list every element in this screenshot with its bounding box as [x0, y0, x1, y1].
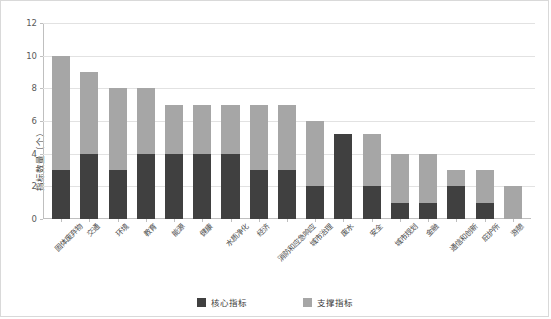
bar-stack[interactable] — [334, 134, 352, 219]
bar-stack[interactable] — [363, 134, 381, 219]
x-label-cell: 庇护所 — [471, 221, 499, 283]
bar-segment-support[interactable] — [165, 105, 183, 154]
x-label-cell: 环境 — [103, 221, 131, 283]
bar-group[interactable] — [358, 23, 386, 219]
bar-stack[interactable] — [306, 121, 324, 219]
y-tick-label: 12 — [26, 18, 37, 28]
x-axis-label: 安全 — [369, 223, 384, 238]
bar-group[interactable] — [329, 23, 357, 219]
bar-segment-support[interactable] — [447, 170, 465, 186]
bar-segment-core[interactable] — [52, 170, 70, 219]
x-axis-label: 环境 — [115, 223, 130, 238]
x-label-cell: 水质净化 — [216, 221, 244, 283]
bar-segment-support[interactable] — [52, 56, 70, 170]
bar-segment-support[interactable] — [391, 154, 409, 203]
x-label-cell: 教育 — [132, 221, 160, 283]
bar-segment-support[interactable] — [476, 170, 494, 203]
bar-stack[interactable] — [504, 186, 522, 219]
x-label-cell: 金融 — [414, 221, 442, 283]
x-axis-label: 能源 — [171, 223, 186, 238]
bar-group[interactable] — [245, 23, 273, 219]
x-axis-label: 经济 — [256, 223, 271, 238]
bar-segment-core[interactable] — [476, 203, 494, 219]
bar-segment-core[interactable] — [221, 154, 239, 219]
bar-stack[interactable] — [165, 105, 183, 219]
x-label-cell: 安全 — [358, 221, 386, 283]
bar-group[interactable] — [132, 23, 160, 219]
bar-segment-core[interactable] — [363, 186, 381, 219]
bar-segment-core[interactable] — [278, 170, 296, 219]
bar-segment-support[interactable] — [306, 121, 324, 186]
bar-group[interactable] — [216, 23, 244, 219]
y-tick-label: 0 — [32, 214, 37, 224]
bar-segment-core[interactable] — [165, 154, 183, 219]
legend-label: 核心指标 — [211, 296, 247, 308]
bar-group[interactable] — [414, 23, 442, 219]
bar-segment-core[interactable] — [193, 154, 211, 219]
bar-segment-support[interactable] — [137, 88, 155, 153]
bar-stack[interactable] — [221, 105, 239, 219]
y-tick-label: 4 — [32, 149, 37, 159]
legend-item[interactable]: 核心指标 — [197, 296, 247, 308]
x-label-cell: 能源 — [160, 221, 188, 283]
bar-segment-core[interactable] — [250, 170, 268, 219]
bar-segment-support[interactable] — [221, 105, 239, 154]
bar-group[interactable] — [103, 23, 131, 219]
x-axis-label: 废水 — [341, 223, 356, 238]
legend-label: 支撑指标 — [317, 296, 353, 308]
bar-stack[interactable] — [109, 88, 127, 219]
bar-group[interactable] — [442, 23, 470, 219]
bar-segment-core[interactable] — [109, 170, 127, 219]
bar-group[interactable] — [75, 23, 103, 219]
bar-segment-core[interactable] — [334, 134, 352, 219]
bar-stack[interactable] — [391, 154, 409, 219]
bar-group[interactable] — [301, 23, 329, 219]
bar-segment-core[interactable] — [447, 186, 465, 219]
bar-segment-support[interactable] — [109, 88, 127, 170]
bar-segment-support[interactable] — [363, 134, 381, 186]
plot-area: 024681012 — [43, 23, 531, 219]
legend-swatch-icon — [303, 298, 312, 307]
bar-series-container — [43, 23, 531, 219]
legend-item[interactable]: 支撑指标 — [303, 296, 353, 308]
bar-stack[interactable] — [52, 56, 70, 219]
bar-segment-support[interactable] — [419, 154, 437, 203]
x-axis-label: 健康 — [199, 223, 214, 238]
bar-stack[interactable] — [447, 170, 465, 219]
bar-segment-support[interactable] — [250, 105, 268, 170]
bar-stack[interactable] — [278, 105, 296, 219]
bar-segment-core[interactable] — [419, 203, 437, 219]
bar-stack[interactable] — [137, 88, 155, 219]
bar-stack[interactable] — [419, 154, 437, 219]
x-axis-label: 教育 — [143, 223, 158, 238]
legend-swatch-icon — [197, 298, 206, 307]
bar-group[interactable] — [47, 23, 75, 219]
x-label-cell: 交通 — [75, 221, 103, 283]
x-label-cell: 城市治理 — [301, 221, 329, 283]
bar-group[interactable] — [499, 23, 527, 219]
bar-segment-core[interactable] — [80, 154, 98, 219]
x-label-cell: 游憩 — [499, 221, 527, 283]
bar-group[interactable] — [386, 23, 414, 219]
bar-segment-support[interactable] — [80, 72, 98, 154]
x-label-cell: 固体废弃物 — [47, 221, 75, 283]
bar-group[interactable] — [160, 23, 188, 219]
bar-segment-support[interactable] — [278, 105, 296, 170]
bar-segment-core[interactable] — [306, 186, 324, 219]
x-label-cell: 消防和应急响应 — [273, 221, 301, 283]
x-label-cell: 废水 — [329, 221, 357, 283]
bar-segment-core[interactable] — [391, 203, 409, 219]
x-label-cell: 通信和创新 — [442, 221, 470, 283]
y-tick-label: 6 — [32, 116, 37, 126]
bar-group[interactable] — [471, 23, 499, 219]
bar-segment-support[interactable] — [504, 186, 522, 219]
x-axis-label: 交通 — [86, 223, 101, 238]
bar-stack[interactable] — [250, 105, 268, 219]
bar-group[interactable] — [273, 23, 301, 219]
bar-stack[interactable] — [80, 72, 98, 219]
bar-segment-support[interactable] — [193, 105, 211, 154]
bar-segment-core[interactable] — [137, 154, 155, 219]
bar-group[interactable] — [188, 23, 216, 219]
bar-stack[interactable] — [476, 170, 494, 219]
bar-stack[interactable] — [193, 105, 211, 219]
